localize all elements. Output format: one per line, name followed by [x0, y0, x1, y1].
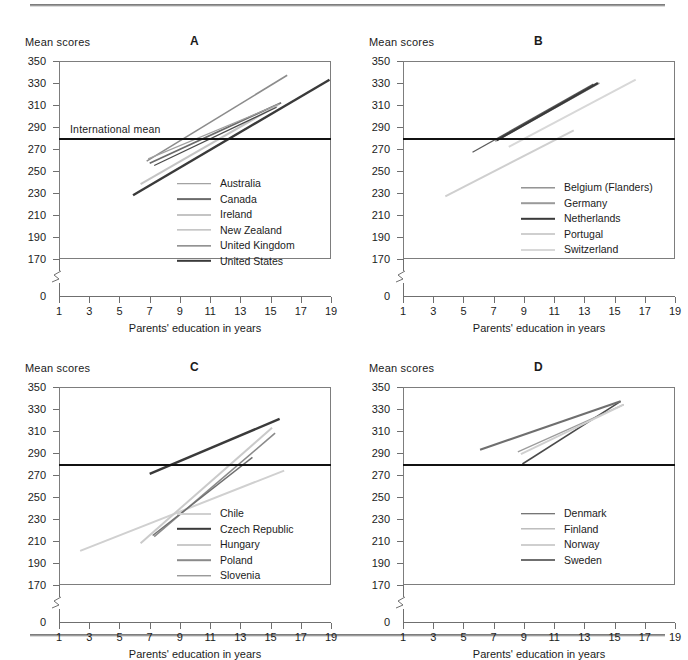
- legend-swatch: [521, 524, 555, 534]
- legend-line-icon: [521, 187, 555, 188]
- legend-item[interactable]: United Kingdom: [177, 238, 295, 254]
- legend-swatch: [521, 509, 555, 519]
- legend-swatch: [177, 225, 211, 235]
- legend-item[interactable]: Hungary: [177, 537, 294, 553]
- legend-item[interactable]: Chile: [177, 506, 294, 522]
- series-line: [473, 84, 594, 152]
- legend-item[interactable]: Australia: [177, 176, 295, 192]
- legend-swatch: [521, 214, 555, 224]
- legend-label: Sweden: [564, 555, 602, 566]
- legend-swatch: [177, 210, 211, 220]
- x-axis-title: Parents' education in years: [403, 648, 675, 660]
- legend: DenmarkFinlandNorwaySweden: [521, 506, 607, 568]
- legend-swatch: [521, 245, 555, 255]
- x-axis-title: Parents' education in years: [59, 322, 331, 334]
- legend-label: New Zealand: [220, 225, 282, 236]
- legend-swatch: [177, 555, 211, 565]
- legend-item[interactable]: Ireland: [177, 207, 295, 223]
- legend: Belgium (Flanders)GermanyNetherlandsPort…: [521, 180, 653, 258]
- series-lines: [344, 348, 688, 648]
- legend-line-icon: [177, 513, 211, 515]
- series-lines: [0, 22, 344, 322]
- legend-label: Finland: [564, 524, 598, 535]
- legend-item[interactable]: Canada: [177, 191, 295, 207]
- legend-label: Czech Republic: [220, 524, 294, 535]
- legend-line-icon: [177, 198, 211, 200]
- legend-item[interactable]: Belgium (Flanders): [521, 180, 653, 196]
- legend-label: Norway: [564, 539, 600, 550]
- legend-label: Portugal: [564, 229, 603, 240]
- legend-label: United Kingdom: [220, 240, 295, 251]
- legend-swatch: [177, 540, 211, 550]
- series-line: [148, 104, 279, 159]
- legend-item[interactable]: Poland: [177, 552, 294, 568]
- legend-line-icon: [177, 544, 211, 546]
- legend-item[interactable]: Germany: [521, 195, 653, 211]
- legend-swatch: [521, 555, 555, 565]
- legend-line-icon: [521, 559, 555, 561]
- legend: AustraliaCanadaIrelandNew ZealandUnited …: [177, 176, 295, 269]
- series-line: [509, 80, 636, 147]
- legend-label: Denmark: [564, 508, 607, 519]
- legend-label: United States: [220, 256, 283, 267]
- series-line: [154, 107, 276, 165]
- international-mean-line: [59, 464, 331, 466]
- legend-swatch: [177, 241, 211, 251]
- international-mean-line: [403, 138, 675, 140]
- international-mean-line: [59, 138, 331, 140]
- legend-line-icon: [177, 575, 211, 576]
- series-line: [480, 401, 621, 449]
- legend-line-icon: [177, 214, 211, 216]
- legend-label: Australia: [220, 178, 261, 189]
- x-axis-title: Parents' education in years: [403, 322, 675, 334]
- panel-c: Mean scoresC3503303102902702502302101901…: [0, 348, 344, 648]
- legend-line-icon: [177, 260, 211, 262]
- panel-a: Mean scoresA3503303102902702502302101901…: [0, 22, 344, 322]
- series-line: [522, 401, 620, 464]
- legend-label: Canada: [220, 194, 257, 205]
- legend-swatch: [521, 229, 555, 239]
- panel-d: Mean scoresD3503303102902702502302101901…: [344, 348, 688, 648]
- legend-label: Belgium (Flanders): [564, 182, 653, 193]
- x-axis-title: Parents' education in years: [59, 648, 331, 660]
- figure-top-rule: [30, 4, 665, 7]
- legend-line-icon: [521, 233, 555, 235]
- legend-label: Netherlands: [564, 213, 621, 224]
- legend-item[interactable]: Denmark: [521, 506, 607, 522]
- legend-line-icon: [177, 528, 211, 530]
- legend-line-icon: [177, 559, 211, 561]
- legend-line-icon: [521, 202, 555, 204]
- legend-line-icon: [521, 249, 555, 251]
- series-lines: [0, 348, 344, 648]
- legend-item[interactable]: Sweden: [521, 552, 607, 568]
- legend-swatch: [177, 524, 211, 534]
- legend-label: Germany: [564, 198, 607, 209]
- legend-item[interactable]: Czech Republic: [177, 521, 294, 537]
- legend-label: Switzerland: [564, 244, 618, 255]
- legend-swatch: [177, 509, 211, 519]
- legend-label: Hungary: [220, 539, 260, 550]
- legend-item[interactable]: Switzerland: [521, 242, 653, 258]
- legend-line-icon: [521, 528, 555, 529]
- legend-label: Ireland: [220, 209, 252, 220]
- legend-item[interactable]: New Zealand: [177, 222, 295, 238]
- legend-line-icon: [521, 217, 555, 219]
- legend-swatch: [521, 183, 555, 193]
- legend-label: Poland: [220, 555, 253, 566]
- legend-item[interactable]: Portugal: [521, 226, 653, 242]
- legend-label: Chile: [220, 508, 244, 519]
- legend-label: Slovenia: [220, 570, 260, 581]
- legend-item[interactable]: United States: [177, 253, 295, 269]
- legend-line-icon: [521, 544, 555, 546]
- legend-line-icon: [177, 229, 211, 230]
- legend-swatch: [521, 540, 555, 550]
- legend-swatch: [177, 194, 211, 204]
- legend-line-icon: [177, 183, 211, 185]
- legend-item[interactable]: Slovenia: [177, 568, 294, 584]
- legend-item[interactable]: Norway: [521, 537, 607, 553]
- legend-line-icon: [521, 513, 555, 515]
- international-mean-line: [403, 464, 675, 466]
- legend-item[interactable]: Netherlands: [521, 211, 653, 227]
- legend-item[interactable]: Finland: [521, 521, 607, 537]
- legend: ChileCzech RepublicHungaryPolandSlovenia: [177, 506, 294, 584]
